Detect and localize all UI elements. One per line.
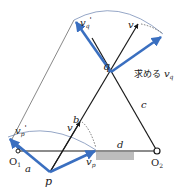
pivot-O1 xyxy=(16,149,20,153)
velocity-diagram: vq' v q 求める vq c b d v vp' vp O1 O2 a p xyxy=(0,0,185,189)
label-O2: O2 xyxy=(151,157,163,169)
label-b: b xyxy=(73,114,79,125)
label-c: c xyxy=(141,99,147,110)
label-O1: O1 xyxy=(9,156,21,168)
label-vq-prime: vq' xyxy=(80,15,92,30)
link-c xyxy=(92,38,157,151)
label-vp: vp xyxy=(86,156,96,169)
pivot-O2 xyxy=(154,148,160,154)
label-d: d xyxy=(117,139,123,150)
label-v-top: v xyxy=(128,19,134,30)
construction-line xyxy=(12,20,74,139)
dotted-bottom xyxy=(82,122,96,148)
label-vp-prime: vp' xyxy=(15,123,27,138)
label-p: p xyxy=(45,175,52,188)
ground-hatch xyxy=(96,152,134,160)
vq-arrow xyxy=(111,37,161,72)
label-find-vq: 求める vq xyxy=(134,68,174,81)
label-v-mid: v xyxy=(67,122,73,133)
label-q: q xyxy=(103,60,110,73)
label-a: a xyxy=(25,163,31,174)
